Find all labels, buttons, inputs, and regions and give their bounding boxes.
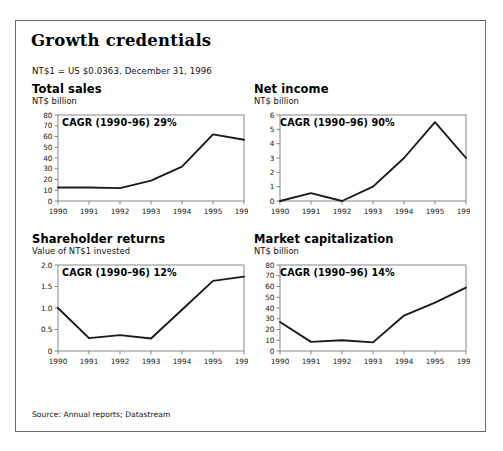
y-tick-label: 1	[270, 182, 275, 191]
x-tick-label: 1995	[204, 207, 223, 216]
y-tick-label: 6	[270, 111, 275, 120]
x-tick-label: 1993	[142, 207, 161, 216]
y-tick-label: 60	[43, 132, 53, 141]
y-tick-label: 60	[265, 282, 275, 291]
y-tick-label: 70	[265, 271, 275, 280]
x-tick-label: 1995	[204, 357, 223, 366]
y-tick-label: 0	[48, 347, 53, 356]
y-tick-label: 1.0	[41, 304, 53, 313]
chart-panel-shareholder-returns: Shareholder returns Value of NT$1 invest…	[32, 233, 248, 371]
panel-header: Total sales NT$ billion	[32, 83, 248, 106]
panel-header: Net income NT$ billion	[254, 83, 470, 106]
y-tick-label: 50	[43, 143, 53, 152]
y-tick-label: 80	[265, 261, 275, 270]
x-tick-label: 1994	[395, 207, 414, 216]
x-tick-label: 1996	[457, 357, 470, 366]
chart-panel-market-capitalization: Market capitalization NT$ billion 010203…	[254, 233, 470, 371]
y-tick-label: 4	[270, 139, 275, 148]
panel-title: Net income	[254, 83, 470, 96]
panel-subtitle: NT$ billion	[32, 96, 248, 106]
y-tick-label: 40	[43, 154, 53, 163]
x-tick-label: 1991	[302, 207, 321, 216]
plot-area: 0102030405060708019901991199219931994199…	[254, 259, 470, 371]
plot-area: 01234561990199119921993199419951996 CAGR…	[254, 109, 470, 221]
y-tick-label: 70	[43, 121, 53, 130]
x-tick-label: 1994	[173, 357, 192, 366]
panel-subtitle: NT$ billion	[254, 246, 470, 256]
plot-area: 00.51.01.52.0199019911992199319941995199…	[32, 259, 248, 371]
x-tick-label: 1993	[364, 357, 383, 366]
y-tick-label: 5	[270, 125, 275, 134]
x-tick-label: 1992	[111, 207, 130, 216]
y-tick-label: 80	[43, 111, 53, 120]
x-tick-label: 1991	[302, 357, 321, 366]
y-tick-label: 50	[265, 293, 275, 302]
x-tick-label: 1990	[271, 357, 290, 366]
y-tick-label: 0.5	[41, 325, 53, 334]
y-tick-label: 1.5	[41, 282, 53, 291]
x-tick-label: 1991	[80, 357, 99, 366]
plot-area: 0102030405060708019901991199219931994199…	[32, 109, 248, 221]
x-tick-label: 1990	[49, 207, 68, 216]
y-tick-label: 2.0	[41, 261, 53, 270]
figure-frame: Growth credentials NT$1 = US $0.0363, De…	[15, 20, 486, 432]
source-note: Source: Annual reports; Datastream	[32, 410, 170, 419]
y-tick-label: 0	[270, 347, 275, 356]
cagr-annotation: CAGR (1990–96) 14%	[280, 267, 395, 278]
x-tick-label: 1992	[333, 357, 352, 366]
chart-panel-total-sales: Total sales NT$ billion 0102030405060708…	[32, 83, 248, 221]
y-tick-label: 3	[270, 154, 275, 163]
exchange-rate-note: NT$1 = US $0.0363, December 31, 1996	[32, 66, 212, 76]
y-tick-label: 2	[270, 168, 275, 177]
x-tick-label: 1991	[80, 207, 99, 216]
panel-title: Shareholder returns	[32, 233, 248, 246]
y-tick-label: 40	[265, 304, 275, 313]
data-line	[280, 288, 466, 343]
x-tick-label: 1993	[364, 207, 383, 216]
y-tick-label: 10	[43, 186, 53, 195]
x-tick-label: 1992	[333, 207, 352, 216]
data-line	[58, 277, 244, 339]
cagr-annotation: CAGR (1990–96) 90%	[280, 117, 395, 128]
y-tick-label: 0	[270, 197, 275, 206]
cagr-annotation: CAGR (1990–96) 29%	[62, 117, 177, 128]
panel-header: Market capitalization NT$ billion	[254, 233, 470, 256]
panel-title: Market capitalization	[254, 233, 470, 246]
y-tick-label: 20	[43, 175, 53, 184]
x-tick-label: 1995	[426, 207, 445, 216]
x-tick-label: 1994	[395, 357, 414, 366]
data-line	[280, 122, 466, 201]
x-tick-label: 1992	[111, 357, 130, 366]
y-tick-label: 10	[265, 336, 275, 345]
x-tick-label: 1990	[49, 357, 68, 366]
panel-title: Total sales	[32, 83, 248, 96]
data-line	[58, 134, 244, 188]
y-tick-label: 30	[43, 164, 53, 173]
panel-subtitle: NT$ billion	[254, 96, 470, 106]
x-tick-label: 1996	[235, 357, 248, 366]
x-tick-label: 1994	[173, 207, 192, 216]
x-tick-label: 1996	[457, 207, 470, 216]
cagr-annotation: CAGR (1990–96) 12%	[62, 267, 177, 278]
x-tick-label: 1996	[235, 207, 248, 216]
y-tick-label: 30	[265, 314, 275, 323]
y-tick-label: 20	[265, 325, 275, 334]
panel-header: Shareholder returns Value of NT$1 invest…	[32, 233, 248, 256]
chart-panel-net-income: Net income NT$ billion 01234561990199119…	[254, 83, 470, 221]
figure-title: Growth credentials	[31, 31, 211, 50]
panel-subtitle: Value of NT$1 invested	[32, 246, 248, 256]
x-tick-label: 1990	[271, 207, 290, 216]
x-tick-label: 1993	[142, 357, 161, 366]
y-tick-label: 0	[48, 197, 53, 206]
x-tick-label: 1995	[426, 357, 445, 366]
